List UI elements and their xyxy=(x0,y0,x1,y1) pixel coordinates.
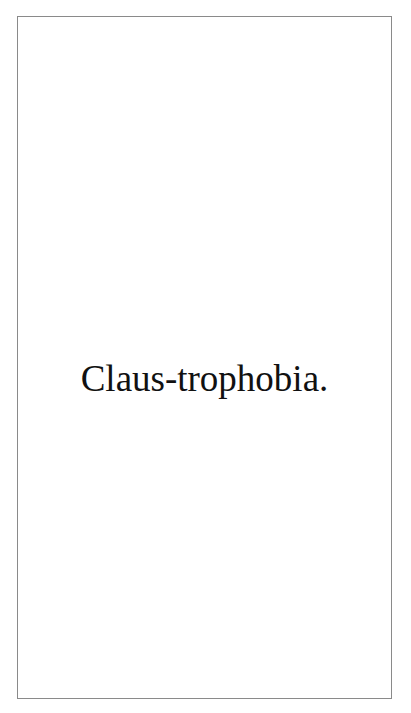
page-text: Claus-trophobia. xyxy=(18,355,391,403)
page-frame: Claus-trophobia. xyxy=(17,16,392,699)
